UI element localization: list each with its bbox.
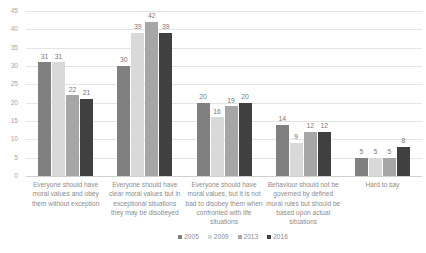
bar-slot: 31 — [52, 11, 65, 176]
bar-slot: 31 — [38, 11, 51, 176]
legend-label: 2016 — [273, 234, 288, 241]
y-axis-tick-label: 30 — [0, 63, 18, 70]
bar-slot: 20 — [239, 11, 252, 176]
bar-value-label: 8 — [402, 138, 406, 145]
category-axis-labels: Everyone should have moral values and ob… — [26, 180, 422, 227]
legend-item[interactable]: 2013 — [238, 234, 259, 241]
bar-slot: 14 — [276, 11, 289, 176]
legend-label: 2009 — [214, 234, 229, 241]
bar-value-label: 30 — [120, 57, 128, 64]
bar-slot: 5 — [369, 11, 382, 176]
legend-swatch-icon — [238, 235, 242, 239]
bar[interactable] — [211, 117, 224, 176]
bar[interactable] — [239, 103, 252, 176]
y-axis-tick-label: 40 — [0, 26, 18, 33]
y-axis-tick-label: 20 — [0, 100, 18, 107]
plot-area: 051015202530354045 313122213039423920161… — [26, 11, 422, 176]
bar-slot: 8 — [397, 11, 410, 176]
bar[interactable] — [369, 158, 382, 176]
bar[interactable] — [383, 158, 396, 176]
bar[interactable] — [304, 132, 317, 176]
bar-slot: 42 — [145, 11, 158, 176]
chart-title — [0, 0, 426, 1]
bar-value-label: 31 — [41, 54, 49, 61]
bar[interactable] — [145, 22, 158, 176]
bar-slot: 5 — [383, 11, 396, 176]
y-axis-tick-label: 5 — [0, 155, 18, 162]
bar-value-label: 42 — [148, 13, 156, 20]
bar-slot: 5 — [355, 11, 368, 176]
chart-legend: 2005200920132016 — [0, 234, 426, 241]
bar[interactable] — [159, 33, 172, 176]
bar-slot: 12 — [318, 11, 331, 176]
bar[interactable] — [80, 99, 93, 176]
legend-label: 2005 — [184, 234, 199, 241]
bar-group: 5558 — [343, 11, 422, 176]
legend-swatch-icon — [208, 235, 212, 239]
gridline — [26, 176, 422, 177]
bar[interactable] — [52, 62, 65, 176]
legend-swatch-icon — [178, 235, 182, 239]
bar-value-label: 39 — [134, 24, 142, 31]
bar-group: 1491212 — [264, 11, 343, 176]
bar-value-label: 5 — [374, 149, 378, 156]
bar[interactable] — [225, 106, 238, 176]
bar[interactable] — [397, 147, 410, 176]
bar-value-label: 12 — [306, 123, 314, 130]
y-axis-tick-label: 0 — [0, 173, 18, 180]
legend-swatch-icon — [267, 235, 271, 239]
bar[interactable] — [197, 103, 210, 176]
bar-cluster: 20161920 — [184, 11, 263, 176]
bar-group: 20161920 — [184, 11, 263, 176]
bar[interactable] — [66, 95, 79, 176]
category-label: Everyone should have clear moral values … — [105, 180, 184, 217]
legend-label: 2013 — [244, 234, 259, 241]
bar-cluster: 31312221 — [26, 11, 105, 176]
bar-value-label: 9 — [294, 134, 298, 141]
bar-value-label: 31 — [55, 54, 63, 61]
bar[interactable] — [117, 66, 130, 176]
y-axis-tick-label: 15 — [0, 118, 18, 125]
legend-item[interactable]: 2009 — [208, 234, 229, 241]
bar-slot: 39 — [131, 11, 144, 176]
bar-value-label: 19 — [227, 98, 235, 105]
bar-slot: 39 — [159, 11, 172, 176]
bar-slot: 20 — [197, 11, 210, 176]
bar-value-label: 22 — [69, 87, 77, 94]
bar-value-label: 12 — [320, 123, 328, 130]
bar-groups: 31312221303942392016192014912125558 — [26, 11, 422, 176]
bar-slot: 16 — [211, 11, 224, 176]
bar[interactable] — [131, 33, 144, 176]
category-label: Behaviour should not be governed by defi… — [264, 180, 343, 227]
bar-slot: 19 — [225, 11, 238, 176]
bar-group: 30394239 — [105, 11, 184, 176]
bar-slot: 9 — [290, 11, 303, 176]
category-label: Everyone should have moral values and ob… — [26, 180, 105, 208]
y-axis-tick-label: 10 — [0, 136, 18, 143]
bar-slot: 21 — [80, 11, 93, 176]
bar-chart: 051015202530354045 313122213039423920161… — [0, 0, 426, 253]
bar[interactable] — [38, 62, 51, 176]
bar-cluster: 1491212 — [264, 11, 343, 176]
bar-value-label: 20 — [199, 94, 207, 101]
bar[interactable] — [318, 132, 331, 176]
legend-item[interactable]: 2005 — [178, 234, 199, 241]
bar-slot: 22 — [66, 11, 79, 176]
y-axis-tick-label: 45 — [0, 8, 18, 15]
bar-slot: 12 — [304, 11, 317, 176]
bar[interactable] — [290, 143, 303, 176]
bar-value-label: 16 — [213, 109, 221, 116]
bar-value-label: 20 — [241, 94, 249, 101]
bar-value-label: 39 — [162, 24, 170, 31]
category-label: Hard to say — [343, 180, 422, 189]
bar-value-label: 5 — [388, 149, 392, 156]
bar[interactable] — [276, 125, 289, 176]
bar[interactable] — [355, 158, 368, 176]
legend-item[interactable]: 2016 — [267, 234, 288, 241]
bar-value-label: 21 — [83, 90, 91, 97]
bar-group: 31312221 — [26, 11, 105, 176]
bar-slot: 30 — [117, 11, 130, 176]
bar-cluster: 30394239 — [105, 11, 184, 176]
y-axis-tick-label: 35 — [0, 45, 18, 52]
bar-value-label: 14 — [278, 116, 286, 123]
